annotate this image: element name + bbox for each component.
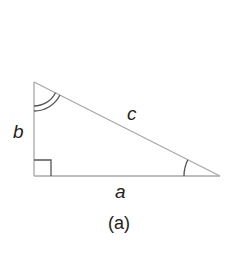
triangle-diagram: b c a (a)	[0, 0, 241, 255]
side-c-label: c	[127, 104, 137, 123]
side-c-line	[34, 82, 220, 176]
figure-caption: (a)	[108, 214, 130, 232]
right-vertex-angle-arc	[184, 160, 188, 176]
right-angle-marker	[34, 160, 51, 176]
top-angle-arc-outer	[34, 95, 60, 111]
side-a-label: a	[115, 182, 126, 201]
side-b-label: b	[13, 122, 24, 141]
